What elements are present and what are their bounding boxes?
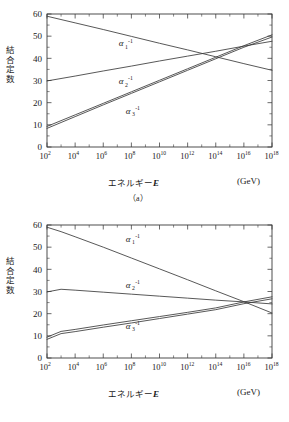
y-tick-label: 20 (33, 309, 43, 319)
svg-text:10: 10 (265, 151, 274, 161)
x-tick-label: 1010 (152, 150, 166, 160)
svg-text:1: 1 (125, 44, 128, 50)
x-tick-label: 1012 (180, 361, 194, 371)
series-line (47, 16, 272, 70)
svg-text:14: 14 (217, 150, 223, 156)
svg-text:10: 10 (208, 151, 217, 161)
svg-text:10: 10 (40, 151, 49, 161)
x-tick-label: 1012 (180, 150, 194, 160)
svg-text:14: 14 (217, 361, 223, 367)
figure-panel-a: 結合定数 01020304050601021041061081010101210… (0, 0, 289, 211)
x-axis-title-symbol: E (153, 389, 159, 399)
svg-text:4: 4 (76, 150, 79, 156)
svg-text:10: 10 (208, 362, 217, 372)
x-tick-label: 106 (96, 150, 107, 160)
svg-text:6: 6 (104, 150, 107, 156)
svg-text:α: α (119, 38, 124, 48)
svg-text:-1: -1 (128, 38, 133, 44)
series-annotation: α1-1 (119, 38, 133, 50)
y-tick-label: 30 (33, 76, 43, 86)
series-line (47, 227, 272, 313)
svg-text:10: 10 (180, 362, 189, 372)
svg-text:2: 2 (125, 82, 128, 88)
x-tick-label: 106 (96, 361, 107, 371)
svg-text:10: 10 (161, 361, 167, 367)
svg-text:3: 3 (132, 326, 135, 332)
svg-text:10: 10 (68, 362, 77, 372)
svg-text:10: 10 (124, 151, 133, 161)
svg-text:18: 18 (273, 150, 279, 156)
series-line-lower (47, 299, 272, 340)
svg-text:α: α (126, 321, 131, 331)
svg-text:18: 18 (273, 361, 279, 367)
svg-text:10: 10 (40, 362, 49, 372)
svg-text:α: α (126, 280, 131, 290)
svg-text:10: 10 (124, 362, 133, 372)
x-tick-label: 1016 (236, 361, 250, 371)
y-tick-label: 60 (33, 220, 43, 230)
x-tick-label: 108 (124, 150, 135, 160)
svg-text:2: 2 (48, 361, 51, 367)
panel-caption-a: （a） (128, 192, 148, 203)
x-tick-label: 1016 (236, 150, 250, 160)
x-tick-label: 102 (40, 150, 51, 160)
y-tick-label: 40 (33, 265, 43, 275)
x-tick-label: 104 (68, 150, 79, 160)
x-tick-label: 1014 (208, 361, 222, 371)
svg-text:-1: -1 (135, 320, 140, 326)
x-axis-title-a: エネルギーE (108, 176, 159, 188)
svg-text:10: 10 (236, 151, 245, 161)
y-tick-label: 50 (33, 242, 43, 252)
x-tick-label: 1018 (265, 361, 279, 371)
svg-text:6: 6 (104, 361, 107, 367)
plot-area-a: 0102030405060102104106108101010121014101… (0, 0, 289, 178)
svg-text:10: 10 (236, 362, 245, 372)
y-tick-label: 10 (33, 120, 43, 130)
y-tick-label: 20 (33, 98, 43, 108)
series-annotation: α1-1 (126, 233, 140, 245)
svg-text:α: α (126, 234, 131, 244)
x-axis-title-b: エネルギーE (108, 387, 159, 399)
figure-panel-b: 結合定数 01020304050601021041061081010101210… (0, 211, 289, 422)
svg-text:-1: -1 (135, 279, 140, 285)
svg-text:16: 16 (245, 361, 251, 367)
svg-text:10: 10 (96, 151, 105, 161)
svg-text:-1: -1 (128, 75, 133, 81)
svg-text:10: 10 (265, 362, 274, 372)
x-axis-title-symbol: E (153, 178, 159, 188)
y-tick-label: 40 (33, 54, 43, 64)
x-axis-title-jp: エネルギー (108, 178, 153, 188)
svg-text:α: α (119, 76, 124, 86)
svg-text:10: 10 (68, 151, 77, 161)
y-tick-label: 60 (33, 9, 43, 19)
y-tick-label: 50 (33, 31, 43, 41)
x-tick-label: 1018 (265, 150, 279, 160)
svg-text:12: 12 (189, 361, 195, 367)
x-tick-label: 108 (124, 361, 135, 371)
y-tick-label: 30 (33, 287, 43, 297)
x-tick-label: 1014 (208, 150, 222, 160)
series-line (47, 289, 272, 304)
svg-text:10: 10 (96, 362, 105, 372)
series-line (47, 35, 272, 127)
series-annotation: α2-1 (126, 279, 140, 291)
series-line-lower (47, 37, 272, 128)
svg-text:8: 8 (132, 361, 135, 367)
x-tick-label: 1010 (152, 361, 166, 371)
svg-text:4: 4 (76, 361, 79, 367)
svg-text:10: 10 (152, 151, 161, 161)
x-axis-unit-a: (GeV) (237, 176, 260, 186)
svg-text:-1: -1 (135, 233, 140, 239)
svg-text:2: 2 (48, 150, 51, 156)
svg-text:3: 3 (132, 111, 135, 117)
svg-text:1: 1 (132, 239, 135, 245)
svg-text:α: α (126, 106, 131, 116)
series-line (47, 41, 272, 81)
x-tick-label: 102 (40, 361, 51, 371)
svg-text:-1: -1 (135, 105, 140, 111)
x-axis-title-jp: エネルギー (108, 389, 153, 399)
x-tick-label: 104 (68, 361, 79, 371)
series-annotation: α2-1 (119, 75, 133, 87)
plot-area-b: 0102030405060102104106108101010121014101… (0, 211, 289, 389)
svg-text:16: 16 (245, 150, 251, 156)
